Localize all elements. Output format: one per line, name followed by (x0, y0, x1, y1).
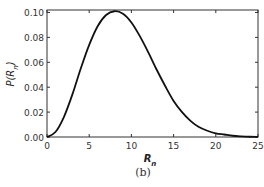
figure-caption: (b) (0, 166, 264, 179)
y-axis-label: P(Rn) (5, 61, 20, 86)
x-tick-label: 25 (252, 141, 263, 151)
x-tick-label: 15 (168, 141, 179, 151)
y-tick-label: 0.04 (24, 83, 44, 93)
y-tick-label: 0.06 (24, 58, 44, 68)
chart: 0.000.020.040.060.080.10 0510152025 Rn P… (0, 0, 264, 166)
x-tick-label: 0 (44, 141, 50, 151)
y-axis-ticks: 0.000.020.040.060.080.10 (24, 8, 258, 143)
y-tick-label: 0.00 (24, 133, 44, 143)
density-curve (47, 11, 258, 137)
y-tick-label: 0.08 (24, 33, 44, 43)
x-tick-label: 10 (126, 141, 138, 151)
x-axis-label: Rn (144, 153, 157, 166)
x-tick-label: 20 (210, 141, 222, 151)
x-tick-label: 5 (86, 141, 92, 151)
y-tick-label: 0.10 (24, 8, 44, 18)
y-tick-label: 0.02 (24, 108, 44, 118)
data-series (47, 11, 258, 137)
